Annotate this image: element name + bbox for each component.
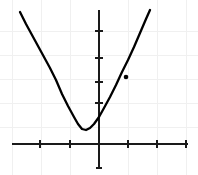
marked-point-on-curve [124,75,129,80]
graph-figure [0,0,198,175]
coordinate-plane-graph [0,0,198,175]
